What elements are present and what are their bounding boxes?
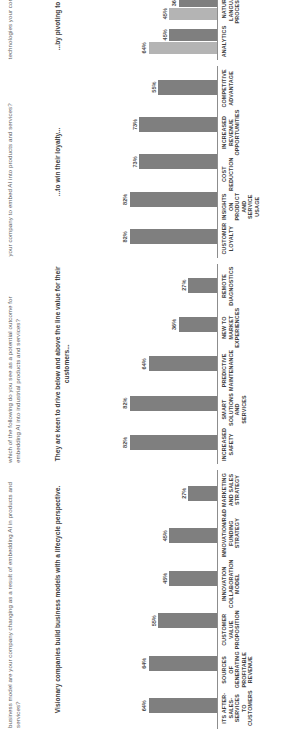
bar-group: 55% <box>84 600 217 643</box>
bar-group: 82% <box>84 423 217 462</box>
rotated-infographic-canvas: business model are your company changing… <box>0 0 289 734</box>
bar-group: 45% <box>84 515 217 558</box>
category-label-row: ITS AFTER-SALES-SERVICES TO CUSTOMERSSOU… <box>218 470 276 729</box>
plot-area: 82%82%73%73%55% <box>84 66 218 257</box>
bar <box>139 154 217 169</box>
bar-value-label: 45% <box>162 573 168 584</box>
category-label-row: CUSTOMER LOYALTYINSIGHTS ON PRODUCT AND … <box>218 66 276 257</box>
bar-group: 64% <box>84 344 217 383</box>
bar <box>130 396 217 411</box>
panel-question-text: your company to embed AI into products a… <box>4 66 48 257</box>
bar <box>179 317 217 332</box>
bar-group: 45%36% <box>84 0 217 24</box>
bar-value-label: 45% <box>162 29 168 40</box>
bar <box>149 656 217 671</box>
bar-column: 45% <box>84 29 217 41</box>
bar <box>169 528 217 543</box>
bar-group: 36% <box>84 305 217 344</box>
chart-panel-business-model: business model are your company changing… <box>4 467 287 732</box>
bar <box>169 571 217 586</box>
panel-subheading: Visionary companies build business model… <box>54 470 80 729</box>
bar-column: 45% <box>84 8 217 20</box>
bar-group: 82% <box>84 383 217 422</box>
bar <box>158 613 217 628</box>
category-label: COMPETITIVE ADVANTAGE <box>221 68 276 108</box>
category-label-row: INCREASED SAFETYSMART SOLUTIONS AND SERV… <box>218 264 276 464</box>
bar-group: 55% <box>84 68 217 105</box>
bar-group: 82% <box>84 181 217 218</box>
bar-value-label: 36% <box>171 319 177 330</box>
category-label: INSIGHTS ON PRODUCT AND SERVICE USAGE <box>221 192 276 222</box>
bar-next-3-years <box>179 0 217 7</box>
bar-value-label: 73% <box>132 119 138 130</box>
category-label: SOURCES OF GENERATING PROFITABLE REVENUE <box>221 650 276 689</box>
bar <box>149 698 217 713</box>
bar-group: 64% <box>84 642 217 685</box>
bar-value-label: 45% <box>162 530 168 541</box>
bar-group: 27% <box>84 266 217 305</box>
category-label: COST REDUCTION <box>221 156 276 191</box>
bar <box>139 117 217 132</box>
bar-value-label: 64% <box>141 42 147 53</box>
bar <box>188 486 217 501</box>
infographic-sheet: business model are your company changing… <box>0 0 289 734</box>
legend: CURRENT NEXT 3 YEARS <box>276 0 287 60</box>
category-label: PREDICTIVE MAINTENANCE <box>221 349 276 392</box>
bar-next-3-years <box>169 29 217 41</box>
bar <box>130 229 217 244</box>
bar-current <box>169 8 217 20</box>
bar <box>130 192 217 207</box>
category-label: ANALYTICS <box>221 25 276 59</box>
category-label: REMOTE DIAGNOSTICS <box>221 266 276 307</box>
bar-group: 45% <box>84 557 217 600</box>
category-label: SMART SOLUTIONS AND SERVICES <box>221 392 276 427</box>
bar <box>130 435 217 450</box>
bar-value-label: 82% <box>122 397 128 408</box>
category-label: NATURAL LANGUAGE PROCESSING <box>221 0 276 25</box>
bar-value-label: 73% <box>132 156 138 167</box>
bar-group: 82% <box>84 218 217 255</box>
panel-question-text: business model are your company changing… <box>4 470 48 729</box>
bar-group: 73% <box>84 143 217 180</box>
chart-panel-ai-technologies: technologies your company is using in in… <box>4 0 287 63</box>
bar-pair: 45%36% <box>84 0 217 24</box>
bar-value-label: 36% <box>171 0 177 6</box>
bar-column: 36% <box>84 0 217 7</box>
category-label: INCREASED REVENUE OPPORTUNITIES <box>221 109 276 157</box>
chart-panel-loyalty: your company to embed AI into products a… <box>4 63 287 260</box>
bar-value-label: 45% <box>162 8 168 19</box>
bar-value-label: 64% <box>141 700 147 711</box>
bar-value-label: 64% <box>141 658 147 669</box>
category-label: ITS AFTER-SALES-SERVICES TO CUSTOMERS <box>221 689 276 727</box>
bar-group: 64% <box>84 685 217 728</box>
bar-value-label: 82% <box>122 194 128 205</box>
bar <box>158 80 217 95</box>
plot-area: 64%64%55%45%45%27% <box>84 470 218 729</box>
bar-value-label: 55% <box>151 615 157 626</box>
category-label: CUSTOMER LOYALTY <box>221 222 276 256</box>
panel-subheading: ...by pivoting to a mix of AI technologi… <box>54 0 80 60</box>
bar-column: 64% <box>84 42 217 54</box>
panel-question-text: technologies your company is using in in… <box>4 0 48 60</box>
bar-value-label: 27% <box>181 488 187 499</box>
category-label: MARKETING AND SALES STRATEGY <box>221 472 276 508</box>
bar-current <box>149 42 217 54</box>
panel-subheading: They are keen to drive below and above t… <box>54 264 80 464</box>
plot-area: 64%45%45%36%45%64%45%73%36%55%36%64% <box>84 0 218 60</box>
chart-panel-outcomes: which of the following do you see as a p… <box>4 261 287 467</box>
category-label: NEW TO MARKET EXPERIENCES <box>221 307 276 349</box>
bar <box>188 278 217 293</box>
bar-value-label: 64% <box>141 358 147 369</box>
bar-pair: 64%45% <box>84 24 217 58</box>
bar-value-label: 27% <box>181 280 187 291</box>
bar-group: 73% <box>84 106 217 143</box>
category-label: INCREASED SAFETY <box>221 427 276 462</box>
bar <box>149 356 217 371</box>
bar-group: 64%45% <box>84 24 217 58</box>
category-label: INNOVATION COLLABORATION MODEL <box>221 558 276 609</box>
bar-value-label: 82% <box>122 231 128 242</box>
panel-subheading: ...to win their loyalty... <box>54 66 80 257</box>
bar-value-label: 82% <box>122 437 128 448</box>
bar-group: 27% <box>84 472 217 515</box>
category-label-row: ANALYTICSNATURAL LANGUAGE PROCESSINGROBO… <box>218 0 276 60</box>
